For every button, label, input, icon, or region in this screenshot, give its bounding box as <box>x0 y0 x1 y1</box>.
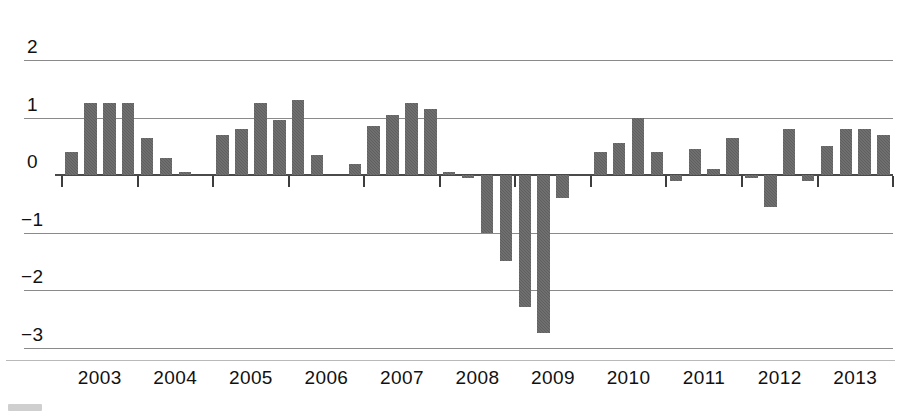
bar <box>235 129 248 175</box>
x-tick-label: 2013 <box>823 367 887 389</box>
x-tick-label: 2004 <box>143 367 207 389</box>
bar <box>594 152 607 175</box>
bar <box>349 164 362 176</box>
bar <box>726 138 739 175</box>
bar <box>141 138 154 175</box>
plot-area: 210−1−2−3 200320042005200620072008200920… <box>0 0 901 416</box>
x-tick-mark <box>892 176 894 187</box>
bar <box>179 172 192 175</box>
bar <box>707 169 720 175</box>
x-tick-mark <box>514 176 516 187</box>
y-tick-label: 0 <box>27 152 38 171</box>
x-tick-label: 2008 <box>446 367 510 389</box>
footer-mark <box>8 404 42 411</box>
bar <box>443 172 456 175</box>
gridline-neg3 <box>24 348 893 349</box>
bar <box>821 146 834 175</box>
bar <box>500 175 513 261</box>
x-tick-label: 2011 <box>672 367 736 389</box>
bar <box>273 120 286 175</box>
bar <box>367 126 380 175</box>
bar <box>651 152 664 175</box>
bar <box>462 175 475 178</box>
x-tick-mark <box>817 176 819 187</box>
x-tick-mark <box>288 176 290 187</box>
bar <box>122 103 135 175</box>
x-tick-label: 2003 <box>68 367 132 389</box>
bar <box>292 100 305 175</box>
bar <box>65 152 78 175</box>
x-tick-mark <box>590 176 592 187</box>
bar <box>764 175 777 207</box>
bar <box>254 103 267 175</box>
bar <box>424 109 437 175</box>
y-tick-label: −2 <box>21 267 44 286</box>
bar <box>689 149 702 175</box>
bar <box>481 175 494 233</box>
y-tick-label: −3 <box>21 325 44 344</box>
gridline-neg1 <box>24 233 893 234</box>
bar <box>386 115 399 175</box>
x-tick-mark <box>363 176 365 187</box>
bar <box>783 129 796 175</box>
x-tick-label: 2007 <box>370 367 434 389</box>
x-tick-label: 2012 <box>748 367 812 389</box>
x-tick-mark <box>665 176 667 187</box>
bar <box>840 129 853 175</box>
bar <box>405 103 418 175</box>
x-tick-label: 2009 <box>521 367 585 389</box>
x-tick-mark <box>137 176 139 187</box>
bottom-rule <box>6 360 895 361</box>
bar <box>632 118 645 176</box>
gridline-1 <box>24 118 893 119</box>
bar <box>519 175 532 307</box>
bar <box>556 175 569 198</box>
x-tick-mark <box>741 176 743 187</box>
bar <box>160 158 173 175</box>
x-tick-mark <box>212 176 214 187</box>
bar-chart: 210−1−2−3 200320042005200620072008200920… <box>0 0 901 416</box>
bar <box>216 135 229 175</box>
x-tick-label: 2006 <box>294 367 358 389</box>
bar <box>537 175 550 333</box>
bar <box>103 103 116 175</box>
bar <box>311 155 324 175</box>
bar <box>84 103 97 175</box>
x-tick-label: 2010 <box>597 367 661 389</box>
bar <box>858 129 871 175</box>
bar <box>745 175 758 178</box>
x-tick-mark <box>61 176 63 187</box>
y-tick-label: −1 <box>21 210 44 229</box>
x-tick-label: 2005 <box>219 367 283 389</box>
gridline-neg2 <box>24 290 893 291</box>
gridline-2 <box>24 60 893 61</box>
bar <box>877 135 890 175</box>
y-tick-label: 2 <box>27 37 38 56</box>
x-tick-mark <box>439 176 441 187</box>
bar <box>802 175 815 181</box>
y-tick-label: 1 <box>27 95 38 114</box>
bar <box>613 143 626 175</box>
bar <box>670 175 683 181</box>
